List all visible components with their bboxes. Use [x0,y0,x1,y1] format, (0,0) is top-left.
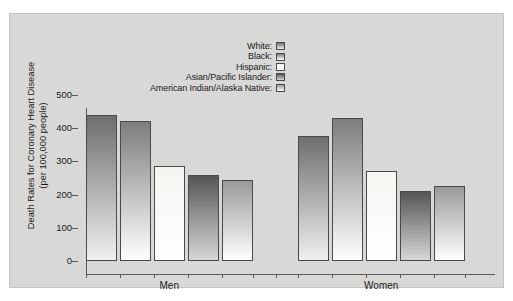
chart-legend: White:Black:Hispanic:Asian/Pacific Islan… [70,41,285,93]
x-axis-tick-mark [188,274,189,278]
x-axis-tick-mark [332,274,333,278]
bar-men-asian-pacific-islander [188,175,219,261]
bar-men-black [120,121,151,261]
y-axis-tick-mark [72,128,78,129]
y-axis-tick-label: 400 [38,122,72,133]
y-axis-tick-label: 200 [38,189,72,200]
y-axis-title-line-1: Death Rates for Coronary Heart Disease [26,51,38,241]
x-axis-tick-mark [298,274,299,278]
x-axis-group-label-men: Men [129,280,209,291]
y-axis-title: Death Rates for Coronary Heart Disease (… [26,51,49,241]
x-axis-tick-mark [222,274,223,278]
y-axis-tick-label: 300 [38,155,72,166]
legend-item-label: Asian/Pacific Islander: [186,72,276,82]
y-axis-tick-mark [72,95,78,96]
legend-item-label: White: [247,41,276,51]
y-axis-tick-label: 100 [38,222,72,233]
y-axis-tick-mark [72,195,78,196]
y-axis-title-line-2: (per 100,000 people) [37,51,49,241]
y-axis-tick-mark [72,161,78,162]
y-axis-tick-label-wrap: 300 [34,161,72,162]
legend-item-white[interactable]: White: [70,41,285,51]
x-axis-tick-mark [366,274,367,278]
y-axis-tick-label-wrap: 0 [34,261,72,262]
x-axis-tick-mark [120,274,121,278]
bar-women-american-indian-alaska-native [434,186,465,261]
x-axis-tick-mark [400,274,401,278]
y-axis-tick-mark [72,261,78,262]
legend-item-hispanic[interactable]: Hispanic: [70,62,285,72]
legend-color-swatch [276,73,285,81]
legend-color-swatch [276,42,285,50]
bar-men-hispanic [154,166,185,261]
legend-item-american-indian-alaska-native[interactable]: American Indian/Alaska Native: [70,83,285,93]
y-axis-tick-label-wrap: 500 [34,95,72,96]
legend-color-swatch [276,53,285,61]
legend-item-black[interactable]: Black: [70,51,285,61]
legend-color-swatch [276,84,285,92]
bar-women-black [332,118,363,261]
x-axis-group-label-women: Women [341,280,421,291]
legend-item-asian-pacific-islander[interactable]: Asian/Pacific Islander: [70,72,285,82]
x-axis-tick-mark [434,274,435,278]
x-axis-tick-mark [154,274,155,278]
x-axis-tick-mark [86,274,87,278]
legend-color-swatch [276,63,285,71]
y-axis-tick-label: 500 [38,89,72,100]
y-axis-tick-label-wrap: 400 [34,128,72,129]
x-axis-tick-mark [465,274,466,278]
x-axis-tick-mark [253,274,254,278]
bar-women-white [298,136,329,261]
bar-women-hispanic [366,171,397,261]
bar-men-white [86,115,117,261]
bar-men-american-indian-alaska-native [222,180,253,261]
legend-item-label: American Indian/Alaska Native: [150,83,276,93]
y-axis-tick-mark [72,228,78,229]
y-axis-tick-label-wrap: 100 [34,228,72,229]
x-axis-tick-mark [276,274,277,278]
bar-women-asian-pacific-islander [400,191,431,261]
chart-panel: White:Black:Hispanic:Asian/Pacific Islan… [9,13,504,288]
y-axis-tick-label: 0 [38,255,72,266]
y-axis-tick-label-wrap: 200 [34,195,72,196]
legend-item-label: Hispanic: [236,62,276,72]
legend-item-label: Black: [248,51,276,61]
chart-figure: White:Black:Hispanic:Asian/Pacific Islan… [0,0,513,301]
